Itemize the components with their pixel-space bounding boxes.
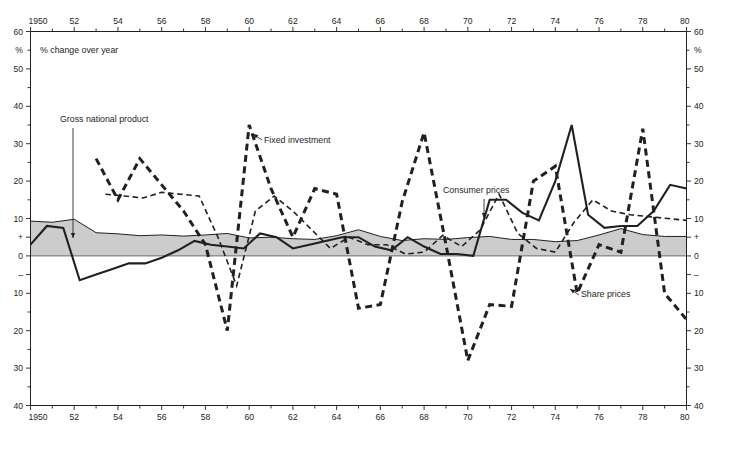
x-axis-label-top: 64 [332, 16, 342, 26]
x-axis-label-top: 60 [244, 16, 254, 26]
x-axis-label-top: 76 [594, 16, 604, 26]
x-axis-label-bottom: 56 [157, 412, 167, 422]
x-axis-label-bottom: 52 [69, 412, 79, 422]
x-axis-label-bottom: 76 [594, 412, 604, 422]
x-axis-label-top: 56 [157, 16, 167, 26]
y-axis-label-right: % [694, 45, 702, 55]
y-axis-label-left: – [18, 270, 23, 280]
y-axis-label-right: 40 [694, 101, 704, 111]
y-axis-label-left: 0 [18, 251, 23, 261]
y-axis-label-right: 60 [694, 27, 704, 37]
y-axis-label-right: 30 [694, 139, 704, 149]
x-axis-label-bottom: 1950 [29, 412, 48, 422]
x-axis-label-top: 80 [680, 16, 690, 26]
x-axis-label-bottom: 62 [288, 412, 298, 422]
annotation-label: Consumer prices [443, 185, 510, 195]
y-axis-label-right: – [694, 270, 699, 280]
plot-area [31, 32, 687, 406]
x-axis-label-bottom: 54 [113, 412, 123, 422]
y-axis-label-left: 30 [13, 363, 23, 373]
y-axis-label-right: 20 [694, 176, 704, 186]
y-axis-label-left: 30 [13, 139, 23, 149]
y-axis-label-left: 50 [13, 64, 23, 74]
x-axis-label-top: 74 [551, 16, 561, 26]
x-axis-label-bottom: 78 [638, 412, 648, 422]
x-axis-label-bottom: 64 [332, 412, 342, 422]
y-axis-label-right: 50 [694, 64, 704, 74]
y-axis-label-left: 40 [13, 101, 23, 111]
x-axis-label-top: 58 [201, 16, 211, 26]
y-axis-label-right: 30 [694, 363, 704, 373]
x-axis-label-top: 62 [288, 16, 298, 26]
y-axis-label-right: 0 [694, 251, 699, 261]
x-axis-label-bottom: 74 [551, 412, 561, 422]
x-axis-label-bottom: 80 [680, 412, 690, 422]
x-axis-label-bottom: 60 [244, 412, 254, 422]
x-axis-label-top: 66 [376, 16, 386, 26]
y-axis-label-left: % [15, 45, 23, 55]
y-axis-label-right: + [694, 232, 699, 242]
annotation-label: Share prices [581, 289, 631, 299]
x-axis-label-bottom: 72 [507, 412, 517, 422]
x-axis-label-top: 68 [419, 16, 429, 26]
y-axis-label-left: 40 [13, 401, 23, 411]
chart-container: 6060%%50504040303020201010++00––10102020… [0, 0, 731, 449]
x-axis-label-bottom: 66 [376, 412, 386, 422]
y-axis-label-left: 10 [13, 214, 23, 224]
x-axis-label-bottom: 58 [201, 412, 211, 422]
y-axis-label-right: 10 [694, 214, 704, 224]
x-axis-label-top: 70 [463, 16, 473, 26]
economic-indicators-line-chart: 6060%%50504040303020201010++00––10102020… [0, 0, 731, 449]
annotation-label: Gross national product [60, 114, 149, 124]
x-axis-label-bottom: 70 [463, 412, 473, 422]
chart-subtitle-group: % change over year [40, 45, 118, 55]
y-axis-label-left: 20 [13, 176, 23, 186]
x-axis-label-bottom: 68 [419, 412, 429, 422]
x-axis-label-top: 72 [507, 16, 517, 26]
y-axis-label-left: + [18, 232, 23, 242]
y-axis-label-left: 60 [13, 27, 23, 37]
y-axis-label-right: 20 [694, 326, 704, 336]
annotation-label: Fixed investment [264, 135, 331, 145]
y-axis-label-right: 40 [694, 401, 704, 411]
y-axis-label-left: 20 [13, 326, 23, 336]
x-axis-label-top: 54 [113, 16, 123, 26]
chart-subtitle: % change over year [40, 45, 118, 55]
x-axis-label-top: 52 [69, 16, 79, 26]
plot-area-background [31, 32, 687, 406]
y-axis-label-left: 10 [13, 288, 23, 298]
x-axis-label-top: 1950 [29, 16, 48, 26]
x-axis-label-top: 78 [638, 16, 648, 26]
y-axis-label-right: 10 [694, 288, 704, 298]
